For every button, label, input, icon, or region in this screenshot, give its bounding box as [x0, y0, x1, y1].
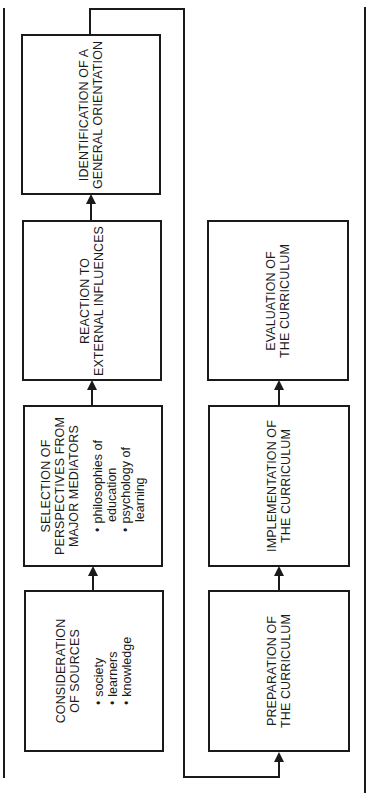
connector-preparation-to-implementation — [278, 574, 280, 590]
bullet-item: psychology of — [119, 440, 133, 532]
box-implementation: IMPLEMENTATION OF THE CURRICULUM — [208, 405, 350, 567]
left-border-rule — [3, 8, 5, 778]
box-title: SELECTION OF PERSPECTIVES FROM MAJOR MED… — [39, 417, 81, 555]
connector-reaction-to-identification — [90, 202, 92, 220]
box-evaluation: EVALUATION OF THE CURRICULUM — [207, 220, 349, 381]
bullet-item: society — [92, 637, 106, 705]
arrow-up-icon — [274, 752, 284, 762]
connector-loop-bottom — [183, 776, 280, 778]
box-title: IDENTIFICATION OF A GENERAL ORIENTATION — [77, 40, 105, 188]
connector-loop-top — [89, 8, 185, 10]
connector-consideration-to-selection — [92, 574, 94, 590]
arrow-up-icon — [274, 380, 284, 390]
box-title: CONSIDERATION OF SOURCES — [54, 619, 82, 724]
box-reaction: REACTION TO EXTERNAL INFLUENCES — [22, 220, 162, 381]
bullet-item: knowledge — [120, 637, 134, 705]
right-border-rule — [364, 7, 366, 793]
arrow-up-icon — [274, 566, 284, 576]
connector-loop-into-preparation — [278, 760, 280, 778]
box-title: REACTION TO EXTERNAL INFLUENCES — [78, 225, 106, 375]
connector-loop-up — [89, 8, 91, 34]
arrow-up-icon — [86, 194, 96, 204]
box-title: EVALUATION OF THE CURRICULUM — [264, 244, 292, 358]
box-identification: IDENTIFICATION OF A GENERAL ORIENTATION — [21, 34, 161, 195]
box-preparation: PREPARATION OF THE CURRICULUM — [208, 590, 350, 752]
bullet-list: society learners knowledge — [92, 637, 134, 705]
connector-loop-down — [183, 8, 185, 778]
bullet-item-continuation: education — [105, 440, 119, 532]
bullet-list: philosophies of education psychology of … — [91, 440, 147, 532]
bullet-item-continuation: learning — [133, 440, 147, 532]
box-title: IMPLEMENTATION OF THE CURRICULUM — [265, 420, 293, 552]
bullet-item: learners — [106, 637, 120, 705]
connector-implementation-to-evaluation — [278, 388, 280, 405]
box-consideration: CONSIDERATION OF SOURCES society learner… — [24, 590, 164, 752]
box-selection: SELECTION OF PERSPECTIVES FROM MAJOR MED… — [23, 405, 163, 567]
box-title: PREPARATION OF THE CURRICULUM — [265, 614, 293, 728]
arrow-up-icon — [87, 380, 97, 390]
bullet-item: philosophies of — [91, 440, 105, 532]
arrow-up-icon — [88, 566, 98, 576]
connector-selection-to-reaction — [91, 388, 93, 405]
